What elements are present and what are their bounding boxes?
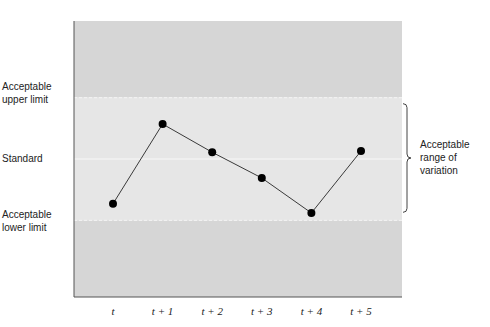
lower-limit-label-line2: lower limit (2, 222, 47, 233)
standard-label: Standard (2, 153, 43, 164)
data-point-4 (307, 209, 315, 217)
range-annotation-line1: Acceptable (420, 139, 470, 150)
range-annotation-line2: range of (420, 152, 457, 163)
outside-lower-band (74, 220, 402, 297)
x-tick-label: t + 1 (152, 305, 173, 317)
range-annotation-line3: variation (420, 165, 458, 176)
x-tick-label: t + 4 (301, 305, 323, 317)
upper-limit-label-line2: upper limit (2, 94, 48, 105)
upper-limit-label-line1: Acceptable (2, 81, 52, 92)
x-tick-label: t + 2 (201, 305, 223, 317)
x-tick-label: t (111, 305, 115, 317)
x-tick-labels: tt + 1t + 2t + 3t + 4t + 5 (111, 305, 372, 317)
data-point-0 (109, 200, 117, 208)
outside-upper-band (74, 21, 402, 98)
control-chart: tt + 1t + 2t + 3t + 4t + 5 Acceptable up… (0, 0, 490, 327)
x-tick-label: t + 5 (350, 305, 372, 317)
data-point-1 (159, 120, 167, 128)
data-point-3 (258, 174, 266, 182)
x-tick-label: t + 3 (251, 305, 273, 317)
lower-limit-label-line1: Acceptable (2, 209, 52, 220)
data-point-5 (357, 147, 365, 155)
range-brace (403, 104, 411, 213)
data-point-2 (208, 148, 216, 156)
